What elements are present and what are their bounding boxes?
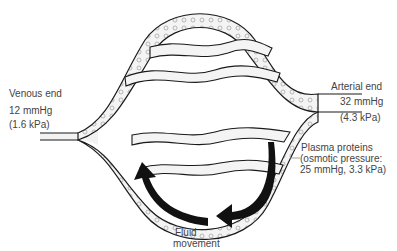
upper-capillary-loop	[78, 14, 318, 140]
venous-end-label: Venous end	[9, 88, 62, 100]
arterial-pressure-mmhg: 32 mmHg	[340, 96, 383, 108]
osmotic-pressure-value: 25 mmHg, 3.3 kPa)	[300, 164, 386, 176]
arterial-end-label: Arterial end	[331, 81, 382, 93]
venous-pressure-kpa: (1.6 kPa)	[9, 119, 50, 131]
capillary-bed-diagram	[0, 0, 397, 251]
arterial-pressure-kpa: (4.3 kPa)	[340, 112, 381, 124]
venous-pressure-mmhg: 12 mmHg	[9, 105, 52, 117]
movement-label: movement	[173, 238, 220, 250]
